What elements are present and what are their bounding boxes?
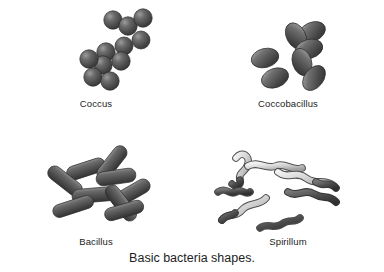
panel-label-bacillus: Bacillus xyxy=(0,236,192,248)
spirillum-illustration xyxy=(192,140,384,238)
panel-label-spirillum: Spirillum xyxy=(192,236,384,248)
panel-coccus: Coccus xyxy=(0,2,192,122)
coccus-illustration xyxy=(0,2,192,100)
bacteria-shapes-figure: Coccus xyxy=(0,0,384,272)
figure-caption: Basic bacteria shapes. xyxy=(0,250,384,266)
bacillus-illustration xyxy=(0,140,192,238)
panel-label-coccobacillus: Coccobacillus xyxy=(192,98,384,110)
coccobacillus-illustration xyxy=(192,2,384,100)
panel-spirillum: Spirillum xyxy=(192,140,384,260)
panel-bacillus: Bacillus xyxy=(0,140,192,260)
panel-coccobacillus: Coccobacillus xyxy=(192,2,384,122)
panel-label-coccus: Coccus xyxy=(0,98,192,110)
